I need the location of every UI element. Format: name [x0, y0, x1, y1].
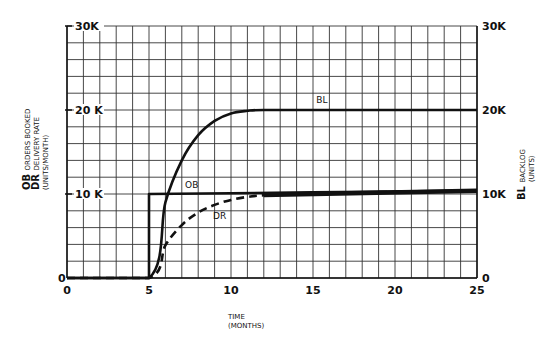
- x-tick-label: 20: [387, 284, 403, 297]
- x-axis-title-line2: (MONTHS): [228, 322, 264, 331]
- y-axis-title-right-line: BL BACKLOG: [516, 149, 527, 200]
- y-tick-label-left: 0: [58, 272, 66, 285]
- x-tick-label: 10: [223, 284, 239, 297]
- x-axis-title: TIME (MONTHS): [228, 313, 264, 331]
- y-axis-title-right-line: (UNITS): [528, 155, 536, 182]
- grid: [67, 26, 477, 278]
- x-tick-label: 25: [469, 284, 484, 297]
- y-tick-label-left: 30K: [75, 20, 99, 33]
- series-label-ob: OB: [185, 180, 198, 190]
- y-tick-label-left: 10 K: [75, 188, 103, 201]
- series-ob-line: [67, 191, 477, 278]
- series-dr-line: [67, 191, 477, 278]
- y-axis-title-left: OB ORDERS BOOKEDDR DELIVERY RATE(UNITS/M…: [21, 109, 50, 190]
- y-axis-title-left-line: (UNITS/MONTH): [42, 134, 50, 190]
- x-axis-title-line1: TIME: [228, 313, 264, 322]
- x-tick-label: 15: [305, 284, 320, 297]
- y-tick-label-right: 10K: [482, 188, 506, 201]
- series-label-dr: DR: [213, 211, 226, 221]
- x-tick-label: 5: [145, 284, 153, 297]
- x-tick-label: 0: [63, 284, 71, 297]
- y-tick-label-right: 0: [482, 272, 490, 285]
- y-tick-label-right: 30K: [482, 20, 506, 33]
- labels: 0510152025010 K20 K30K010K20K30KBLOBDROB…: [21, 20, 536, 297]
- y-tick-label-left: 20 K: [75, 104, 103, 117]
- y-axis-title-right: BL BACKLOG(UNITS): [516, 149, 536, 200]
- series-label-bl: BL: [316, 95, 327, 105]
- y-tick-label-right: 20K: [482, 104, 506, 117]
- chart: 0510152025010 K20 K30K010K20K30KBLOBDROB…: [0, 0, 559, 348]
- axes: [67, 26, 477, 278]
